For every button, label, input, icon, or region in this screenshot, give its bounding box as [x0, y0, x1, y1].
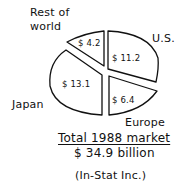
value-rest-of-world: $ 4.2	[78, 38, 101, 49]
value-us: $ 11.2	[112, 53, 140, 64]
label-europe: Europe	[125, 117, 165, 128]
value-europe: $ 6.4	[112, 95, 135, 106]
pie-chart	[0, 0, 185, 193]
label-rest-of-world-line2: world	[30, 21, 61, 32]
value-japan: $ 13.1	[62, 79, 90, 90]
label-us: U.S.	[152, 33, 175, 44]
label-rest-of-world-line1: Rest of	[30, 7, 69, 18]
chart-title: Total 1988 market	[58, 132, 170, 144]
pie-chart-figure: Rest of world U.S. Japan Europe $ 4.2 $ …	[0, 0, 185, 193]
chart-total: $ 34.9 billion	[74, 147, 155, 159]
label-japan: Japan	[12, 99, 44, 110]
chart-source: (In-Stat Inc.)	[75, 170, 146, 181]
